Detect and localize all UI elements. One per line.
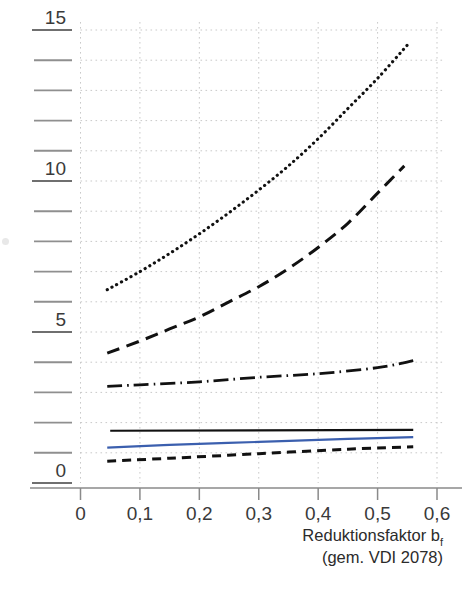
series-long-dash-steep bbox=[107, 166, 404, 353]
y-tick-label: 15 bbox=[45, 7, 66, 28]
x-axis-ticks bbox=[81, 488, 438, 500]
x-tick-label: 0,1 bbox=[127, 503, 153, 524]
y-tick-label: 5 bbox=[55, 309, 66, 330]
series-short-dash-low bbox=[107, 447, 413, 462]
chart-canvas: 05101500,10,20,30,40,50,6 bbox=[0, 0, 467, 589]
data-series-layer bbox=[107, 45, 413, 461]
x-tick-label: 0,5 bbox=[364, 503, 390, 524]
tick-labels: 05101500,10,20,30,40,50,6 bbox=[45, 7, 450, 524]
series-dotted-steep bbox=[107, 45, 407, 290]
x-tick-label: 0,3 bbox=[246, 503, 272, 524]
y-tick-label: 0 bbox=[55, 460, 66, 481]
x-tick-label: 0,4 bbox=[305, 503, 332, 524]
series-solid-blue bbox=[107, 437, 413, 448]
series-solid-black-flat bbox=[110, 430, 413, 431]
series-dash-dot-flat bbox=[107, 361, 413, 387]
x-tick-label: 0 bbox=[75, 503, 86, 524]
x-tick-label: 0,2 bbox=[186, 503, 212, 524]
y-axis-ticks bbox=[32, 30, 72, 483]
grid-lines bbox=[81, 22, 444, 483]
x-tick-label: 0,6 bbox=[424, 503, 450, 524]
y-tick-label: 10 bbox=[45, 158, 66, 179]
chart-figure: 05101500,10,20,30,40,50,6 Reduktionsfakt… bbox=[0, 0, 467, 589]
